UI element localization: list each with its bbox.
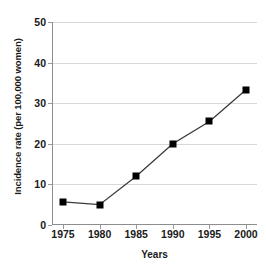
y-tick-mark	[48, 225, 52, 226]
plot-area	[52, 22, 257, 225]
data-point-marker	[59, 198, 66, 205]
y-tick-label: 20	[34, 139, 46, 150]
x-tick-label: 1990	[161, 229, 184, 240]
y-axis-title-label: Incidence rate (per 100,000 women)	[12, 38, 23, 195]
data-point-marker	[169, 140, 176, 147]
y-tick-label: 10	[34, 179, 46, 190]
incidence-rate-line-chart: Incidence rate (per 100,000 women) 01020…	[0, 0, 266, 272]
x-tick-label: 1975	[51, 229, 74, 240]
data-markers	[52, 22, 257, 225]
data-point-marker	[133, 173, 140, 180]
y-axis-tick-labels: 01020304050	[26, 0, 49, 232]
y-tick-label: 50	[34, 17, 46, 28]
y-tick-label: 40	[34, 57, 46, 68]
data-point-marker	[206, 118, 213, 125]
x-axis-title: Years	[52, 249, 257, 260]
x-tick-label: 1985	[125, 229, 148, 240]
x-tick-label: 1995	[198, 229, 221, 240]
data-point-marker	[96, 201, 103, 208]
x-tick-label: 2000	[234, 229, 257, 240]
y-axis-title: Incidence rate (per 100,000 women)	[8, 0, 26, 232]
y-tick-label: 30	[34, 98, 46, 109]
data-point-marker	[243, 86, 250, 93]
x-tick-label: 1980	[88, 229, 111, 240]
y-tick-label: 0	[40, 220, 46, 231]
x-axis-tick-labels: 197519801985199019952000	[52, 229, 257, 245]
